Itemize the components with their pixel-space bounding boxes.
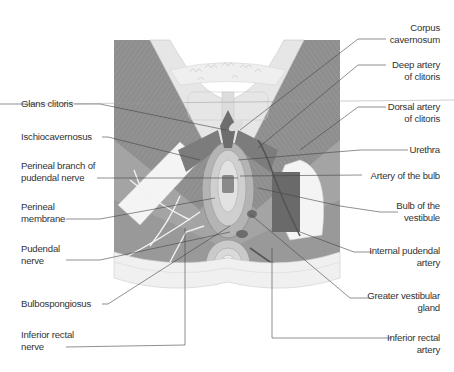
label-dorsal-artery-of-clitoris: Dorsal artery of clitoris xyxy=(388,101,440,125)
label-internal-pudendal-artery: Internal pudendal artery xyxy=(369,245,440,269)
label-bulb-of-the-vestibule: Bulb of the vestibule xyxy=(396,200,440,224)
label-artery-of-the-bulb: Artery of the bulb xyxy=(371,170,440,182)
greater-vestibular-gland-shape xyxy=(236,230,248,238)
label-bulbospongiosus: Bulbospongiosus xyxy=(21,298,91,310)
label-glans-clitoris: Glans clitoris xyxy=(21,98,73,110)
label-urethra: Urethra xyxy=(409,144,440,156)
label-deep-artery-of-clitoris: Deep artery of clitoris xyxy=(392,59,440,83)
label-perineal-branch-of-pudendal-nerve: Perineal branch of pudendal nerve xyxy=(21,160,95,184)
label-ischiocavernosus: Ischiocavernosus xyxy=(21,131,92,143)
label-pudendal-nerve: Pudendal nerve xyxy=(21,243,60,267)
label-inferior-rectal-nerve: Inferior rectal nerve xyxy=(21,329,74,353)
perineum-anatomy-illustration xyxy=(0,0,454,372)
label-perineal-membrane: Perineal membrane xyxy=(21,201,65,225)
label-corpus-cavernosum: Corpus cavernosum xyxy=(390,22,440,46)
label-greater-vestibular-gland: Greater vestibular gland xyxy=(367,290,440,314)
label-inferior-rectal-artery: Inferior rectal artery xyxy=(387,332,440,356)
